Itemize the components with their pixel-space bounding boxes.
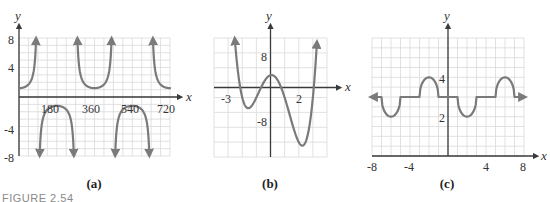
graph-b-subtitle: (b) <box>262 176 278 191</box>
graph-a-ytick-4: 4 <box>8 61 14 75</box>
graph-b-y-label: y <box>264 8 272 23</box>
graph-a-ytick-8: 8 <box>8 33 14 47</box>
graph-b-x-label: x <box>344 79 351 94</box>
graph-b-ytick-neg8: -8 <box>257 115 267 129</box>
graph-a: y x 180 360 540 720 8 4 -4 -8 (a) <box>4 8 192 191</box>
graph-b-curve <box>235 40 317 145</box>
graph-a-ytick-neg8: -8 <box>4 151 14 165</box>
graph-a-xtick-360: 360 <box>82 102 100 116</box>
graph-c-subtitle: (c) <box>440 176 454 191</box>
graph-a-ytick-neg4: -4 <box>4 123 14 137</box>
graph-a-subtitle: (a) <box>86 176 101 191</box>
graph-a-y-label: y <box>13 8 21 23</box>
graph-c-xtick-8: 8 <box>520 160 526 174</box>
graph-a-xtick-180: 180 <box>41 102 59 116</box>
graph-c-xtick-neg4: -4 <box>404 160 414 174</box>
figure-canvas: y x 180 360 540 720 8 4 -4 -8 (a) y x -3… <box>0 0 550 202</box>
graph-a-x-label: x <box>185 89 192 104</box>
graph-c-y-label: y <box>442 8 450 23</box>
graph-c-xtick-4: 4 <box>483 160 489 174</box>
figure-caption: FIGURE 2.54 <box>2 192 74 202</box>
graph-b-xtick-neg3: -3 <box>221 92 231 106</box>
graph-a-xtick-540: 540 <box>121 102 139 116</box>
graph-b: y x -3 2 8 -8 (b) <box>214 8 351 191</box>
graph-c-xtick-neg8: -8 <box>367 160 377 174</box>
graph-c-ytick-4: 4 <box>439 72 445 86</box>
graph-b-ytick-8: 8 <box>261 50 267 64</box>
graph-a-xtick-720: 720 <box>157 102 175 116</box>
graph-c-ytick-2: 2 <box>439 111 445 125</box>
graph-b-xtick-2: 2 <box>296 92 302 106</box>
graph-c: y x -8 -4 4 8 4 2 (c) <box>367 8 547 191</box>
graph-c-x-label: x <box>540 148 547 163</box>
